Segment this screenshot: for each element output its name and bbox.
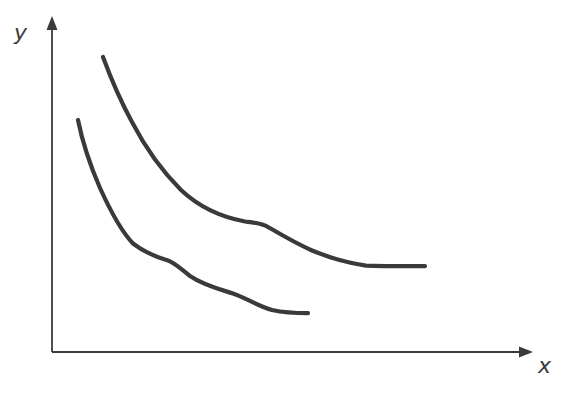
figure-canvas: y x — [0, 0, 568, 396]
y-axis — [47, 16, 58, 352]
x-axis-arrowhead — [519, 347, 533, 358]
chart-svg — [0, 0, 568, 396]
y-axis-label: y — [14, 22, 27, 44]
x-axis — [52, 347, 533, 358]
x-axis-label: x — [538, 355, 551, 377]
y-axis-arrowhead — [47, 16, 58, 30]
upper-curve — [103, 57, 425, 266]
lower-curve — [78, 120, 308, 313]
